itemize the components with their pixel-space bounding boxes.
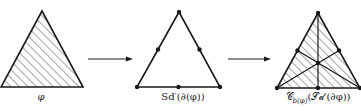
arrow-right-icon (88, 57, 133, 62)
simplex-triangle (1, 11, 83, 87)
arrow-right-icon (228, 57, 271, 62)
simplex-label: φ (37, 91, 44, 102)
cone-label-main: 𝒞 (286, 91, 293, 102)
cone-label-arg: (𝒮𝒹′(∂φ)) (307, 91, 350, 102)
cone-triangle (275, 11, 361, 90)
cone-label: 𝒞b(φ)(𝒮𝒹′(∂φ)) (286, 91, 351, 105)
subdivided-boundary-triangle (135, 10, 222, 89)
vertex-dots (135, 10, 222, 89)
simplex-label-text: φ (37, 91, 44, 102)
subdivided-boundary-label: Sd′(∂(φ)) (161, 91, 204, 102)
cone-label-sub: b(φ) (293, 97, 308, 105)
